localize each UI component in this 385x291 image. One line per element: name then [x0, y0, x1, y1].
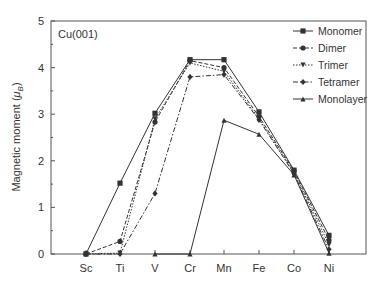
svg-text:Trimer: Trimer — [318, 59, 348, 71]
series-monolayer — [152, 118, 331, 257]
legend-item-trimer: Trimer — [293, 59, 348, 71]
y-tick-label: 2 — [38, 155, 44, 167]
y-tick-label: 1 — [38, 201, 44, 213]
legend-item-tetramer: Tetramer — [293, 76, 360, 88]
x-tick-label: Ti — [116, 262, 125, 274]
svg-text:Tetramer: Tetramer — [318, 76, 360, 88]
y-axis-title: Magnetic moment (μB) — [10, 82, 25, 191]
legend: MonomerDimerTrimerTetramerMonolayer — [293, 25, 368, 105]
legend-item-monomer: Monomer — [293, 25, 363, 37]
x-tick-label: Co — [287, 262, 301, 274]
y-tick-label: 3 — [38, 108, 44, 120]
x-tick-label: Mn — [216, 262, 231, 274]
magnetic-moment-chart: 012345 ScTiVCrMnFeCoNi Cu(001) Magnetic … — [0, 0, 385, 291]
svg-text:Monolayer: Monolayer — [318, 93, 368, 105]
x-tick-label: Fe — [253, 262, 266, 274]
y-tick-label: 0 — [38, 248, 44, 260]
svg-text:Dimer: Dimer — [318, 42, 347, 54]
series-dimer — [83, 58, 331, 257]
x-tick-label: Cr — [184, 262, 196, 274]
legend-item-dimer: Dimer — [293, 42, 347, 54]
x-tick-label: V — [151, 262, 159, 274]
legend-item-monolayer: Monolayer — [293, 93, 368, 105]
svg-text:Magnetic moment (μB): Magnetic moment (μB) — [10, 82, 25, 191]
series-trimer — [83, 60, 331, 256]
y-tick-label: 4 — [38, 62, 44, 74]
svg-text:Monomer: Monomer — [318, 25, 363, 37]
series-layer — [83, 57, 331, 257]
x-tick-label: Sc — [80, 262, 93, 274]
y-tick-label: 5 — [38, 15, 44, 27]
y-axis: 012345 — [38, 15, 55, 260]
substrate-annotation: Cu(001) — [58, 28, 98, 40]
x-tick-label: Ni — [324, 262, 334, 274]
series-monomer — [83, 57, 331, 257]
